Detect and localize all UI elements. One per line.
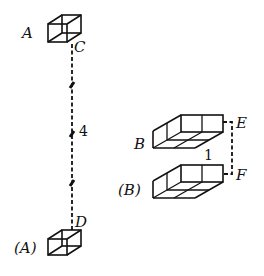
tick-mark — [70, 82, 74, 88]
path-e-to-f — [223, 122, 232, 174]
distance-label-4: 4 — [79, 123, 88, 139]
distance-label-1: 1 — [204, 147, 213, 163]
label-a-image: (A) — [14, 239, 37, 257]
block-b — [153, 115, 223, 148]
cube-translation-diagram: A C 4 D (A) B E 1 — [0, 0, 264, 276]
diagram-canvas: A C 4 D (A) B E 1 — [0, 0, 264, 276]
label-c: C — [74, 38, 86, 56]
label-f: F — [235, 166, 247, 184]
cube-a-image — [48, 230, 81, 255]
label-b: B — [133, 135, 145, 153]
label-b-image: (B) — [118, 181, 141, 199]
label-d: D — [74, 213, 87, 231]
tick-mark — [70, 131, 74, 137]
tick-mark — [70, 180, 74, 186]
block-b-image — [153, 165, 223, 198]
label-a: A — [20, 24, 33, 42]
label-e: E — [235, 114, 247, 132]
